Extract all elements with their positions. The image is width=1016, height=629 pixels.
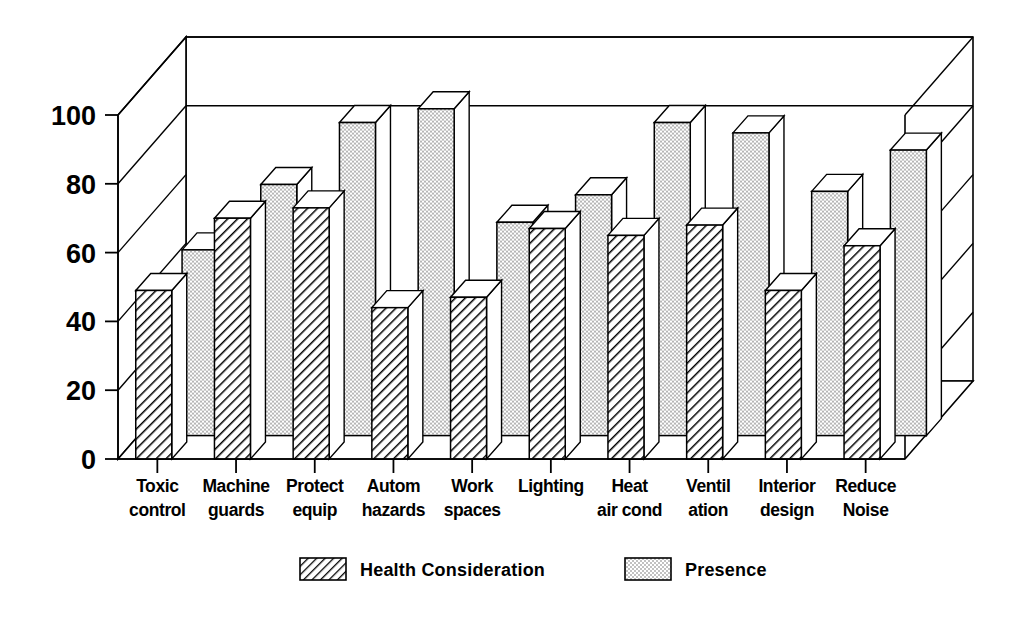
x-axis-tick-label-line2: equip <box>292 500 337 520</box>
bar-health-consideration <box>765 290 801 459</box>
y-axis-tick-label: 0 <box>81 445 96 475</box>
legend-label: Presence <box>685 560 767 580</box>
legend-label: Health Consideration <box>360 560 545 580</box>
bar-presence <box>654 123 690 436</box>
bar-presence <box>890 150 926 436</box>
y-axis-tick-label: 60 <box>66 239 96 269</box>
x-axis-tick-label: Protect <box>286 476 344 496</box>
bar-health-consideration <box>844 246 880 459</box>
legend-item: Presence <box>625 558 767 580</box>
bar-presence <box>418 109 454 436</box>
bar-presence <box>733 133 769 436</box>
bar-presence <box>497 222 533 435</box>
chart-legend: Health ConsiderationPresence <box>300 558 767 580</box>
bar-health-consideration <box>293 208 329 459</box>
bar-health-consideration <box>372 308 408 459</box>
y-axis-tick-label: 40 <box>66 307 96 337</box>
x-axis-tick-label-line2: guards <box>208 500 265 520</box>
x-axis-tick-label: Interior <box>758 476 816 496</box>
x-axis-tick-label: Reduce <box>835 476 896 496</box>
bar-presence <box>261 184 297 435</box>
x-axis-tick-label: Lighting <box>518 476 584 496</box>
bar-health-consideration <box>214 218 250 459</box>
bar-presence <box>812 191 848 435</box>
bar-presence <box>576 195 612 436</box>
x-axis-tick-label: Work <box>451 476 494 496</box>
x-axis-tick-label-line2: air cond <box>597 500 662 520</box>
x-axis-tick-label-line2: ation <box>688 500 728 520</box>
x-axis <box>118 459 905 473</box>
x-axis-tick-label: Toxic <box>136 476 179 496</box>
y-axis: 020406080100 <box>51 101 118 475</box>
y-axis-tick-label: 100 <box>51 101 96 131</box>
x-axis-tick-label: Machine <box>202 476 270 496</box>
x-axis-tick-label-line2: Noise <box>843 500 889 520</box>
x-axis-tick-label-line2: spaces <box>444 500 502 520</box>
legend-swatch-health-consideration <box>300 558 346 580</box>
bar-health-consideration <box>451 297 487 459</box>
bar-presence <box>339 123 375 436</box>
x-axis-tick-label-line2: design <box>760 500 814 520</box>
bar-health-consideration <box>608 235 644 459</box>
bar-presence <box>182 250 218 436</box>
x-axis-tick-label: Autom <box>367 476 420 496</box>
bar-health-consideration <box>529 229 565 459</box>
x-axis-tick-label: Ventil <box>686 476 730 496</box>
bar-health-consideration <box>687 225 723 459</box>
x-axis-tick-label-line2: hazards <box>362 500 426 520</box>
bar-health-consideration <box>136 290 172 459</box>
y-axis-tick-label: 80 <box>66 170 96 200</box>
x-axis-labels: ToxiccontrolMachineguardsProtectequipAut… <box>129 476 897 520</box>
y-axis-tick-label: 20 <box>66 376 96 406</box>
x-axis-tick-label: Heat <box>611 476 648 496</box>
x-axis-tick-label-line2: control <box>129 500 186 520</box>
chart-figure: 020406080100 ToxiccontrolMachineguardsPr… <box>0 0 1016 629</box>
three-d-bar-chart: 020406080100 ToxiccontrolMachineguardsPr… <box>0 0 1016 629</box>
legend-swatch-presence <box>625 558 671 580</box>
legend-item: Health Consideration <box>300 558 545 580</box>
